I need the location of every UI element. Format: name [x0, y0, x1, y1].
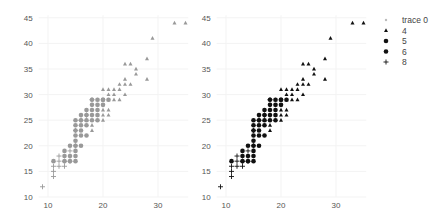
data-point-cyl-6: [84, 133, 89, 138]
x-tick-label: 20: [277, 201, 286, 210]
data-point-cyl-6: [73, 159, 78, 164]
data-point-cyl-6: [262, 118, 267, 123]
data-point-cyl-6: [246, 144, 251, 149]
data-point-cyl-5: [279, 103, 284, 108]
data-point-cyl-6: [251, 133, 256, 138]
data-point-cyl-6: [90, 103, 95, 108]
data-point-cyl-6: [51, 159, 56, 164]
data-point-cyl-6: [251, 118, 256, 123]
data-point-cyl-6: [273, 103, 278, 108]
data-point-cyl-6: [79, 133, 84, 138]
data-point-cyl-6: [79, 123, 84, 128]
data-point-cyl-6: [273, 108, 278, 113]
data-point-cyl-4: [296, 82, 300, 86]
y-tick-label: 25: [202, 116, 211, 125]
legend-label: 5: [402, 36, 407, 46]
data-point-cyl-6: [79, 128, 84, 133]
data-point-cyl-8: [40, 184, 45, 189]
legend-marker-5: [384, 39, 389, 44]
data-point-cyl-6: [84, 118, 89, 123]
y-tick-label: 15: [202, 167, 211, 176]
data-point-cyl-8: [57, 154, 62, 159]
data-point-cyl-5: [101, 103, 106, 108]
data-point-cyl-8: [62, 159, 67, 164]
data-point-cyl-6: [257, 133, 262, 138]
data-point-cyl-4: [301, 62, 305, 66]
data-point-cyl-4: [90, 123, 94, 127]
data-point-cyl-8: [51, 169, 56, 174]
data-point-cyl-6: [257, 144, 262, 149]
data-point-cyl-8: [51, 174, 56, 179]
data-point-cyl-6: [62, 149, 67, 154]
y-tick-label: 25: [24, 116, 33, 125]
data-point-cyl-4: [268, 128, 272, 132]
data-point-cyl-6: [79, 144, 84, 149]
data-point-cyl-8: [57, 159, 62, 164]
data-point-cyl-4: [112, 87, 116, 91]
data-point-cyl-4: [312, 72, 316, 76]
data-point-cyl-6: [73, 149, 78, 154]
data-point-cyl-6: [95, 103, 100, 108]
data-point-cyl-6: [95, 118, 100, 123]
data-point-cyl-6: [257, 123, 262, 128]
data-point-cyl-8: [229, 164, 234, 169]
data-point-cyl-8: [79, 118, 84, 123]
legend-label: 6: [402, 47, 407, 57]
data-point-cyl-6: [101, 97, 106, 102]
data-point-cyl-6: [251, 154, 256, 159]
data-point-cyl-6: [95, 97, 100, 102]
data-point-cyl-4: [290, 87, 294, 91]
data-point-cyl-4: [351, 21, 355, 25]
data-point-cyl-8: [73, 128, 78, 133]
data-point-cyl-4: [118, 87, 122, 91]
data-point-cyl-4: [268, 123, 272, 127]
data-point-cyl-4: [184, 21, 188, 25]
legend-label: 4: [402, 26, 407, 36]
data-point-cyl-8: [73, 143, 78, 148]
data-point-cyl-6: [73, 123, 78, 128]
y-tick-label: 45: [24, 14, 33, 23]
data-point-cyl-6: [90, 118, 95, 123]
data-point-cyl-6: [257, 113, 262, 118]
data-point-cyl-6: [90, 108, 95, 113]
data-point-cyl-4: [123, 82, 127, 86]
data-point-cyl-4: [329, 36, 333, 40]
data-point-cyl-6: [268, 108, 273, 113]
data-point-cyl-4: [107, 87, 111, 91]
data-point-cyl-4: [323, 77, 327, 81]
data-point-cyl-4: [285, 113, 289, 117]
legend-label: 8: [402, 57, 407, 67]
data-point-cyl-8: [268, 97, 273, 102]
data-point-cyl-4: [279, 113, 283, 117]
data-point-cyl-4: [296, 98, 300, 102]
data-point-cyl-6: [262, 123, 267, 128]
data-point-cyl-6: [268, 118, 273, 123]
data-point-cyl-4: [101, 113, 105, 117]
legend: trace 04568: [384, 15, 429, 67]
data-point-cyl-6: [73, 118, 78, 123]
data-point-cyl-6: [73, 133, 78, 138]
data-point-cyl-6: [95, 113, 100, 118]
data-point-cyl-6: [240, 154, 245, 159]
data-point-cyl-8: [57, 164, 62, 169]
data-point-cyl-6: [257, 128, 262, 133]
data-point-cyl-4: [107, 113, 111, 117]
data-point-cyl-8: [51, 164, 56, 169]
data-point-cyl-6: [251, 138, 256, 143]
y-tick-label: 45: [202, 14, 211, 23]
data-point-cyl-8: [62, 164, 67, 169]
data-point-cyl-4: [118, 98, 122, 102]
data-point-cyl-6: [251, 159, 256, 164]
data-point-cyl-8: [84, 113, 89, 118]
data-point-cyl-8: [240, 164, 245, 169]
data-point-cyl-6: [229, 159, 234, 164]
data-point-cyl-6: [268, 103, 273, 108]
data-point-cyl-6: [262, 133, 267, 138]
data-point-cyl-4: [301, 82, 305, 86]
data-point-cyl-8: [90, 97, 95, 102]
data-point-cyl-6: [273, 113, 278, 118]
data-point-cyl-6: [251, 149, 256, 154]
y-tick-label: 15: [24, 167, 33, 176]
data-point-cyl-6: [273, 97, 278, 102]
data-point-cyl-8: [235, 164, 240, 169]
